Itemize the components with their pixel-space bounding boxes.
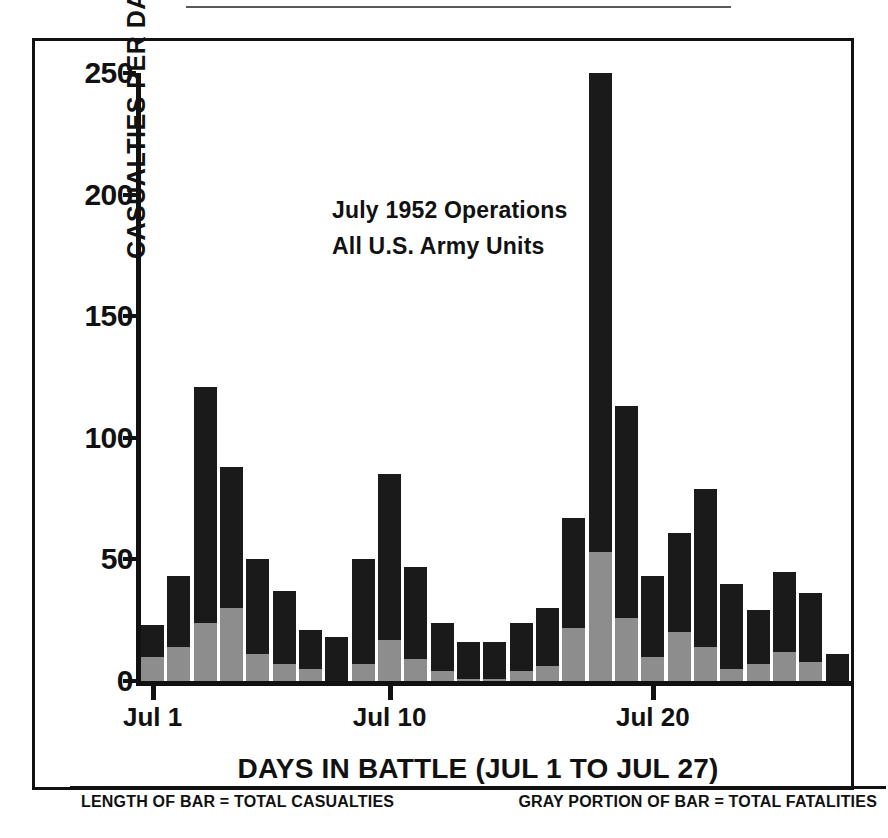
bar: [589, 73, 612, 681]
bar-gray-segment: [299, 669, 322, 681]
bar-gray-segment: [352, 664, 375, 681]
bar-gray-segment: [404, 659, 427, 681]
legend-total-fatalities: GRAY PORTION OF BAR = TOTAL FATALITIES: [518, 793, 877, 811]
y-tick-label: 50: [101, 542, 133, 576]
bar: [167, 576, 190, 681]
bar-gray-segment: [694, 647, 717, 681]
x-tick-label: Jul 10: [353, 702, 427, 733]
bar: [273, 591, 296, 681]
bar-gray-segment: [641, 657, 664, 681]
bar-gray-segment: [562, 628, 585, 682]
bar: [404, 567, 427, 681]
bar-gray-segment: [615, 618, 638, 681]
bar: [431, 623, 454, 681]
bar-gray-segment: [589, 552, 612, 681]
bar-gray-segment: [141, 657, 164, 681]
bar-gray-segment: [194, 623, 217, 681]
x-tick: [151, 683, 156, 700]
bar-gray-segment: [483, 679, 506, 681]
bar: [773, 572, 796, 681]
x-tick: [651, 683, 656, 700]
figure-legend: LENGTH OF BAR = TOTAL CASUALTIES GRAY PO…: [81, 793, 877, 811]
x-tick-label: Jul 1: [123, 702, 182, 733]
bar: [747, 610, 770, 681]
bar: [720, 584, 743, 681]
legend-total-casualties: LENGTH OF BAR = TOTAL CASUALTIES: [81, 793, 394, 811]
annotation-line-2: All U.S. Army Units: [332, 229, 567, 265]
bar-total-segment: [352, 559, 375, 681]
bar-gray-segment: [668, 632, 691, 681]
bar-gray-segment: [246, 654, 269, 681]
top-rule: [186, 6, 731, 8]
bar: [694, 489, 717, 681]
bar: [141, 625, 164, 681]
y-tick-label: 150: [84, 299, 133, 333]
bar: [510, 623, 533, 681]
bar-gray-segment: [799, 662, 822, 681]
bar-gray-segment: [747, 664, 770, 681]
bar: [246, 559, 269, 681]
y-tick-label: 250: [84, 56, 133, 90]
bar-total-segment: [720, 584, 743, 681]
bar: [668, 533, 691, 681]
figure-frame: CASUALTIES PER DAY 050100150200250 Jul 1…: [32, 38, 854, 790]
chart-annotation: July 1952 Operations All U.S. Army Units: [332, 193, 567, 264]
bar-gray-segment: [536, 666, 559, 681]
bar-gray-segment: [378, 640, 401, 681]
y-tick-label: 200: [84, 178, 133, 212]
bar: [483, 642, 506, 681]
bar: [826, 654, 849, 681]
x-tick-label: Jul 20: [616, 702, 690, 733]
x-axis-title: DAYS IN BATTLE (JUL 1 TO JUL 27): [67, 753, 888, 785]
bar: [352, 559, 375, 681]
bar: [220, 467, 243, 681]
bar-gray-segment: [220, 608, 243, 681]
bar: [536, 608, 559, 681]
bar-gray-segment: [720, 669, 743, 681]
bar: [562, 518, 585, 681]
bar-gray-segment: [167, 647, 190, 681]
bar-total-segment: [457, 642, 480, 681]
bar: [299, 630, 322, 681]
bar-gray-segment: [431, 671, 454, 681]
bar-gray-segment: [273, 664, 296, 681]
bar: [378, 474, 401, 681]
bar-gray-segment: [510, 671, 533, 681]
plot-area: CASUALTIES PER DAY 050100150200250 Jul 1…: [136, 73, 852, 721]
annotation-line-1: July 1952 Operations: [332, 193, 567, 229]
bar: [457, 642, 480, 681]
bar: [325, 637, 348, 681]
x-tick: [388, 683, 393, 700]
figure-page: CASUALTIES PER DAY 050100150200250 Jul 1…: [0, 0, 888, 838]
bar-total-segment: [826, 654, 849, 681]
bar: [641, 576, 664, 681]
y-tick-label: 100: [84, 421, 133, 455]
footer-divider: [70, 786, 886, 789]
bar-gray-segment: [457, 679, 480, 681]
x-axis-line: [136, 681, 852, 686]
y-tick-label: 0: [117, 664, 133, 698]
bar: [615, 406, 638, 681]
bar-gray-segment: [773, 652, 796, 681]
bar-group: [141, 73, 852, 681]
bar: [194, 387, 217, 681]
bar: [799, 593, 822, 681]
bar-total-segment: [325, 637, 348, 681]
bar-total-segment: [483, 642, 506, 681]
